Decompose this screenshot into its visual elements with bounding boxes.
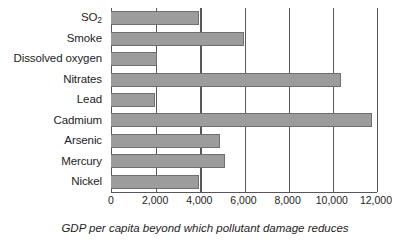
- category-label: Cadmium: [0, 110, 107, 130]
- bar: [111, 113, 372, 127]
- category-label: Lead: [0, 90, 107, 110]
- category-label: Nitrates: [0, 69, 107, 89]
- category-label: Dissolved oxygen: [0, 49, 107, 69]
- bar: [111, 154, 225, 168]
- bar: [111, 11, 199, 25]
- bar-row: [112, 90, 377, 110]
- x-tick-label: 6,000: [230, 195, 256, 206]
- x-axis-title: GDP per capita beyond which pollutant da…: [0, 222, 410, 234]
- bar-row: [112, 49, 377, 69]
- x-axis-tick-labels: 02,0004,0006,0008,00010,00012,000: [111, 195, 376, 211]
- bar-row: [112, 69, 377, 89]
- category-label: SO2: [0, 8, 107, 28]
- bar-row: [112, 151, 377, 171]
- category-label: Mercury: [0, 151, 107, 171]
- bar-row: [112, 28, 377, 48]
- bar-chart: SO2SmokeDissolved oxygenNitratesLeadCadm…: [0, 0, 410, 246]
- bar-row: [112, 8, 377, 28]
- plot-area: [111, 8, 378, 192]
- category-axis: SO2SmokeDissolved oxygenNitratesLeadCadm…: [0, 8, 107, 192]
- x-tick-label: 10,000: [316, 195, 348, 206]
- category-label: Smoke: [0, 28, 107, 48]
- bar: [111, 134, 220, 148]
- x-tick-label: 12,000: [360, 195, 392, 206]
- bar-row: [112, 172, 377, 192]
- bar-series: [112, 8, 377, 192]
- bar: [111, 73, 341, 87]
- category-label: Arsenic: [0, 131, 107, 151]
- x-tick-label: 2,000: [142, 195, 168, 206]
- bar: [111, 93, 155, 107]
- x-tick-label: 0: [108, 195, 114, 206]
- x-tick-label: 8,000: [275, 195, 301, 206]
- bar-row: [112, 110, 377, 130]
- bar-row: [112, 131, 377, 151]
- x-tick-label: 4,000: [186, 195, 212, 206]
- bar: [111, 32, 244, 46]
- category-label: Nickel: [0, 172, 107, 192]
- bar: [111, 175, 199, 189]
- bar: [111, 52, 157, 66]
